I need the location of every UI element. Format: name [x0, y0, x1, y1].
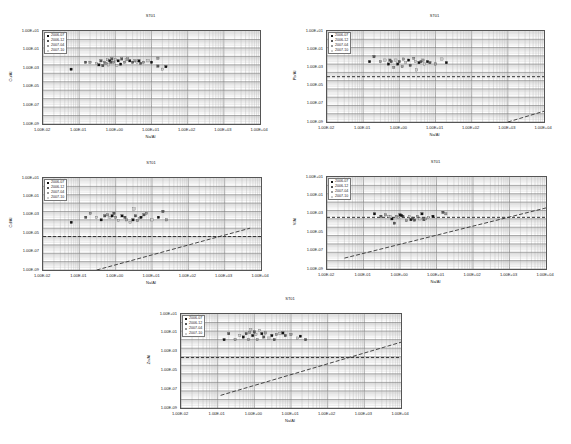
legend-item: 2007-10	[331, 194, 348, 199]
x-tick-label: 1.00E+02	[318, 411, 335, 416]
x-tick-label: 1.00E-01	[70, 127, 86, 132]
x-axis-label: Na/Al	[430, 132, 440, 137]
y-tick-label: 1.00E-05	[296, 229, 323, 234]
legend: 2006-072006-122007-042007-10	[328, 178, 351, 200]
chart-title: ST01	[426, 159, 446, 164]
plot-area: 2006-072006-122007-042007-10	[326, 30, 545, 123]
y-tick-label: 1.00E-01	[296, 192, 323, 197]
x-tick-label: 1.00E-01	[354, 272, 370, 277]
legend-marker-icon	[47, 35, 49, 37]
x-tick-label: 1.00E+04	[391, 411, 408, 416]
x-tick-label: 1.00E+02	[179, 273, 196, 278]
y-tick-label: 1.00E+01	[296, 28, 323, 33]
x-tick-label: 1.00E+03	[215, 273, 232, 278]
x-tick-label: 1.00E-01	[354, 125, 370, 130]
legend-marker-icon	[331, 186, 333, 188]
x-tick-label: 1.00E+00	[390, 125, 407, 130]
legend-marker-icon	[331, 50, 333, 52]
chart-title: ST01	[280, 296, 300, 301]
y-axis-label: Cd/Al	[8, 215, 13, 231]
x-tick-label: 1.00E+01	[426, 125, 443, 130]
legend-label: 2007-10	[335, 194, 348, 199]
y-tick-label: 1.00E-03	[150, 348, 177, 353]
x-tick-label: 1.00E+02	[178, 127, 195, 132]
y-tick-label: 1.00E+01	[12, 28, 39, 33]
x-tick-label: 1.00E+01	[142, 273, 159, 278]
x-tick-label: 1.00E+03	[498, 125, 515, 130]
x-tick-label: 1.00E+04	[251, 273, 268, 278]
x-tick-label: 1.00E-01	[70, 273, 86, 278]
x-tick-label: 1.00E+03	[355, 411, 372, 416]
y-tick-label: 1.00E-01	[12, 46, 39, 51]
y-tick-label: 1.00E-09	[12, 121, 39, 126]
y-tick-label: 1.00E-07	[12, 248, 39, 253]
legend: 2006-072006-122007-042007-10	[328, 32, 351, 54]
y-tick-label: 1.00E-05	[12, 83, 39, 88]
legend-marker-icon	[331, 40, 333, 42]
y-tick-label: 1.00E-07	[12, 102, 39, 107]
x-tick-label: 1.00E-02	[318, 125, 334, 130]
legend-marker-icon	[331, 196, 333, 198]
x-tick-label: 1.00E+01	[142, 127, 159, 132]
x-tick-label: 1.00E-02	[34, 273, 50, 278]
y-axis-label: V/Al	[292, 214, 297, 230]
legend: 2006-072006-122007-042007-10	[44, 179, 67, 201]
x-axis-label: Na/Al	[146, 280, 156, 285]
y-tick-label: 1.00E-03	[296, 64, 323, 69]
plot-area: 2006-072006-122007-042007-10	[326, 176, 547, 270]
x-tick-label: 1.00E+03	[214, 127, 231, 132]
y-tick-label: 1.00E+01	[296, 174, 323, 179]
legend-item: 2007-10	[47, 195, 64, 200]
legend-marker-icon	[185, 323, 187, 325]
legend: 2006-072006-122007-042007-10	[182, 315, 205, 337]
x-tick-label: 1.00E+02	[463, 272, 480, 277]
y-tick-label: 1.00E-07	[296, 100, 323, 105]
chart-title: ST01	[141, 13, 161, 18]
y-tick-label: 1.00E-03	[296, 210, 323, 215]
legend-marker-icon	[185, 333, 187, 335]
legend-marker-icon	[331, 35, 333, 37]
y-tick-label: 1.00E-03	[12, 65, 39, 70]
y-tick-label: 1.00E-01	[12, 193, 39, 198]
y-tick-label: 1.00E-07	[150, 386, 177, 391]
x-axis-label: Na/Al	[285, 418, 295, 423]
y-tick-label: 1.00E+01	[150, 311, 177, 316]
y-tick-label: 1.00E-03	[12, 211, 39, 216]
legend-label: 2007-10	[189, 331, 202, 336]
x-tick-label: 1.00E+01	[281, 411, 298, 416]
y-tick-label: 1.00E-01	[296, 46, 323, 51]
x-tick-label: 1.00E+04	[536, 272, 553, 277]
legend-marker-icon	[185, 328, 187, 330]
legend-marker-icon	[185, 318, 187, 320]
legend-marker-icon	[331, 45, 333, 47]
x-tick-label: 1.00E-02	[318, 272, 334, 277]
plot-area: 2006-072006-122007-042007-10	[42, 30, 261, 125]
y-tick-label: 1.00E-09	[296, 266, 323, 271]
y-axis-label: Cu/Al	[8, 68, 13, 84]
legend-marker-icon	[47, 50, 49, 52]
legend-marker-icon	[331, 181, 333, 183]
legend-marker-icon	[47, 182, 49, 184]
plot-area: 2006-072006-122007-042007-10	[180, 313, 402, 409]
chart-title: ST01	[141, 160, 161, 165]
chart-title: ST01	[425, 13, 445, 18]
legend-item: 2007-10	[47, 48, 64, 53]
x-tick-label: 1.00E-02	[34, 127, 50, 132]
legend-label: 2007-10	[335, 48, 348, 53]
x-tick-label: 1.00E+00	[390, 272, 407, 277]
legend-label: 2007-10	[51, 48, 64, 53]
legend-marker-icon	[47, 192, 49, 194]
y-tick-label: 1.00E-01	[150, 329, 177, 334]
y-axis-label: Zn/Al	[146, 352, 151, 368]
legend-marker-icon	[47, 45, 49, 47]
x-axis-label: Na/Al	[146, 134, 156, 139]
legend: 2006-072006-122007-042007-10	[44, 32, 67, 54]
x-tick-label: 1.00E+00	[106, 127, 123, 132]
x-tick-label: 1.00E+00	[106, 273, 123, 278]
y-tick-label: 1.00E-05	[12, 230, 39, 235]
y-tick-label: 1.00E-09	[12, 267, 39, 272]
y-tick-label: 1.00E-05	[150, 367, 177, 372]
x-tick-label: 1.00E-01	[209, 411, 225, 416]
y-tick-label: 1.00E+01	[12, 175, 39, 180]
x-tick-label: 1.00E+02	[462, 125, 479, 130]
